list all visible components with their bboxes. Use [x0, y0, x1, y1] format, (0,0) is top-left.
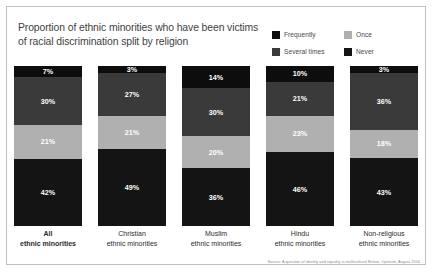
bar-segment-value: 23%: [293, 130, 308, 137]
category-label-line-2: ethnic minorities: [182, 239, 250, 249]
bar-segment[interactable]: 23%: [266, 116, 334, 153]
bar-segment[interactable]: 49%: [98, 149, 166, 226]
bar-segment-value: 43%: [377, 189, 392, 196]
legend-label-never: Never: [356, 48, 374, 55]
bar-segment-value: 3%: [127, 66, 138, 73]
chart-title-line-1: Proportion of ethnic minorities who have…: [18, 22, 258, 33]
bar-group: 3%27%21%49%: [98, 66, 166, 226]
chart-category-labels: Allethnic minoritiesChristianethnic mino…: [14, 229, 418, 248]
category-label-line-1: Christian: [98, 229, 166, 239]
category-label: Allethnic minorities: [14, 229, 82, 248]
chart-title-line-2: of racial discrimination split by religi…: [18, 36, 188, 47]
bar-segment-value: 30%: [41, 98, 56, 105]
legend-label-frequently: Frequently: [284, 31, 316, 38]
bar-group: 10%21%23%46%: [266, 66, 334, 226]
bar-segment-value: 42%: [41, 189, 56, 196]
bar-segment[interactable]: 42%: [14, 159, 82, 226]
bar-segment-value: 10%: [293, 70, 308, 77]
legend-label-once: Once: [356, 31, 372, 38]
bar-group: 3%36%18%43%: [350, 66, 418, 226]
category-label-line-2: ethnic minorities: [14, 239, 82, 249]
category-label-line-1: Non-religious: [350, 229, 418, 239]
bar-segment-value: 21%: [41, 138, 56, 145]
bar-segment-value: 36%: [377, 98, 392, 105]
bar-segment-value: 21%: [293, 95, 308, 102]
legend-swatch-several-times: [272, 48, 280, 56]
bar-segment-value: 18%: [377, 140, 392, 147]
category-label-line-2: ethnic minorities: [350, 239, 418, 249]
chart-plot-area: 7%30%21%42%3%27%21%49%14%30%20%36%10%21%…: [14, 66, 418, 226]
bar-segment-value: 46%: [293, 186, 308, 193]
bar-segment[interactable]: 36%: [182, 168, 250, 226]
legend-swatch-once: [344, 31, 352, 39]
category-label-line-1: All: [14, 229, 82, 239]
bar-segment-value: 30%: [209, 109, 224, 116]
bar-segment-value: 20%: [209, 149, 224, 156]
legend-item-once[interactable]: Once: [344, 31, 418, 39]
bar-segment[interactable]: 7%: [14, 66, 82, 77]
bar-segment[interactable]: 20%: [182, 136, 250, 168]
legend-item-never[interactable]: Never: [344, 48, 418, 56]
bar-segment[interactable]: 27%: [98, 73, 166, 116]
bar-segment[interactable]: 21%: [14, 125, 82, 159]
bar-segment-value: 27%: [125, 91, 140, 98]
bar-segment[interactable]: 30%: [182, 88, 250, 136]
bar-segment[interactable]: 30%: [14, 77, 82, 125]
legend-item-several-times[interactable]: Several times: [272, 48, 344, 56]
category-label-line-1: Hindu: [266, 229, 334, 239]
category-label: Non-religiousethnic minorities: [350, 229, 418, 248]
chart-figure: Proportion of ethnic minorities who have…: [0, 0, 432, 272]
bar-segment[interactable]: 10%: [266, 66, 334, 82]
category-label: Hinduethnic minorities: [266, 229, 334, 248]
category-label: Muslimethnic minorities: [182, 229, 250, 248]
legend-swatch-never: [344, 48, 352, 56]
stacked-bar[interactable]: 14%30%20%36%: [182, 66, 250, 226]
bar-segment[interactable]: 21%: [266, 82, 334, 116]
stacked-bar[interactable]: 7%30%21%42%: [14, 66, 82, 226]
bar-segment[interactable]: 36%: [350, 73, 418, 130]
bar-segment[interactable]: 3%: [98, 66, 166, 73]
category-label-line-2: ethnic minorities: [266, 239, 334, 249]
bar-segment-value: 49%: [125, 184, 140, 191]
legend-item-frequently[interactable]: Frequently: [272, 31, 344, 39]
category-label-line-1: Muslim: [182, 229, 250, 239]
chart-title: Proportion of ethnic minorities who have…: [18, 21, 273, 49]
stacked-bar[interactable]: 3%36%18%43%: [350, 66, 418, 226]
bar-segment-value: 3%: [379, 66, 390, 73]
legend-label-several-times: Several times: [284, 48, 325, 55]
bar-segment[interactable]: 46%: [266, 152, 334, 226]
chart-legend: Frequently Once Several times Never: [272, 26, 418, 60]
bar-segment-value: 14%: [209, 74, 224, 81]
bar-segment[interactable]: 43%: [350, 158, 418, 226]
legend-swatch-frequently: [272, 31, 280, 39]
bar-segment-value: 7%: [43, 68, 54, 75]
bar-segment[interactable]: 18%: [350, 130, 418, 158]
bar-group: 7%30%21%42%: [14, 66, 82, 226]
bar-group: 14%30%20%36%: [182, 66, 250, 226]
bar-segment[interactable]: 14%: [182, 66, 250, 88]
bar-segment[interactable]: 21%: [98, 116, 166, 149]
bar-segment-value: 36%: [209, 194, 224, 201]
category-label: Christianethnic minorities: [98, 229, 166, 248]
chart-source-note: Source: A question of identity and equal…: [267, 259, 420, 264]
bar-segment-value: 21%: [125, 129, 140, 136]
stacked-bar[interactable]: 10%21%23%46%: [266, 66, 334, 226]
category-label-line-2: ethnic minorities: [98, 239, 166, 249]
bar-segment[interactable]: 3%: [350, 66, 418, 73]
stacked-bar[interactable]: 3%27%21%49%: [98, 66, 166, 226]
